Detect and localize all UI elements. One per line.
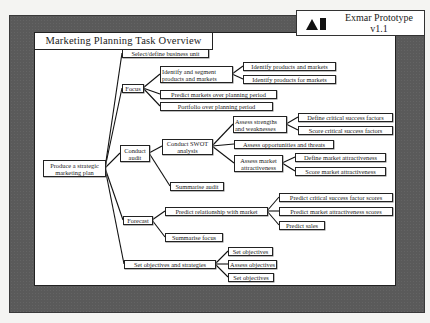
node-define-market[interactable]: Define market attractiveness (295, 153, 386, 162)
node-set-objectives-strategies[interactable]: Set objectives and strategies (124, 260, 216, 269)
node-assess-strengths[interactable]: Assess strengths and weaknesses (233, 116, 287, 133)
node-score-market[interactable]: Score market attractiveness (295, 167, 386, 176)
node-conduct-swot[interactable]: Conduct SWOT analysis (162, 139, 213, 155)
node-root[interactable]: Produce a strategic marketing plan (43, 160, 106, 177)
node-assess-objectives[interactable]: Assess objectives (228, 260, 277, 269)
node-identify-products-for-markets[interactable]: Identify products for markets (243, 75, 336, 84)
node-forecast[interactable]: Forecast (123, 216, 153, 225)
node-identify-products-markets[interactable]: Identify products and markets (243, 62, 336, 71)
node-assess-market[interactable]: Assess market attractiveness (234, 155, 283, 172)
node-predict-sales[interactable]: Predict sales (279, 221, 325, 230)
node-score-csf[interactable]: Score critical success factors (298, 126, 393, 135)
node-select-business-unit[interactable]: Select/define business unit (122, 49, 209, 58)
node-predict-csf-scores[interactable]: Predict critical success factor scores (279, 193, 393, 202)
node-predict-market-scores[interactable]: Predict market attractiveness scores (279, 207, 393, 216)
node-predict-markets[interactable]: Predict markets over planning period (160, 90, 277, 99)
node-assess-opportunities[interactable]: Assess opportunities and threats (234, 140, 334, 149)
node-set-objectives-2[interactable]: Set objectives (228, 273, 274, 282)
node-set-objectives-1[interactable]: Set objectives (228, 247, 273, 256)
node-summarise-audit[interactable]: Summarise audit (170, 182, 224, 191)
node-focus[interactable]: Focus (122, 84, 144, 93)
node-identify-segment[interactable]: Identify and segment products and market… (160, 66, 233, 83)
node-portfolio[interactable]: Portfolio over planning period (160, 102, 273, 111)
node-predict-relationship[interactable]: Predict relationship with market (165, 207, 268, 216)
node-define-csf[interactable]: Define critical success factors (298, 113, 393, 122)
node-conduct-audit[interactable]: Conduct audit (120, 145, 150, 162)
node-summarise-focus[interactable]: Summarise focus (165, 233, 223, 242)
